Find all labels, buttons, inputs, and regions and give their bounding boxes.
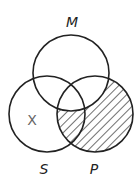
label-p: P <box>90 161 99 175</box>
mark-x: X <box>27 112 37 128</box>
label-m: M <box>66 14 78 30</box>
label-s: S <box>40 161 49 175</box>
venn-diagram: M S P X <box>0 0 140 175</box>
